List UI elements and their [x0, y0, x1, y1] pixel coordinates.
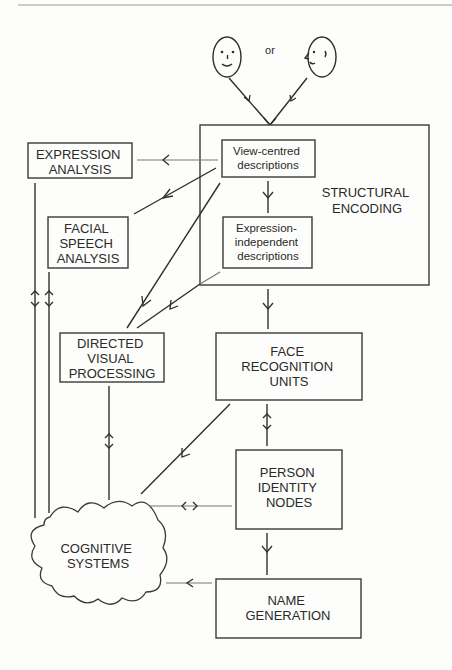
front-face-icon [213, 37, 241, 77]
expression-analysis-label: EXPRESSION ANALYSIS [36, 147, 124, 177]
edge-expr-indep-to-directed-visual [137, 284, 200, 328]
person-identity-nodes-label: PERSON IDENTITY NODES [258, 465, 321, 510]
face-recognition-diagram: or STRUCTURAL ENCODING View-centred desc… [0, 0, 452, 670]
profile-face-icon [305, 37, 336, 77]
cognitive-systems-label: COGNITIVE SYSTEMS [60, 541, 135, 571]
expression-independent-label: Expression- independent descriptions [235, 222, 302, 262]
facial-speech-label: FACIAL SPEECH ANALYSIS [57, 221, 120, 266]
or-label: or [265, 44, 275, 56]
edge-fru-to-cognitive [141, 404, 230, 494]
structural-encoding-label: STRUCTURAL ENCODING [322, 185, 413, 216]
